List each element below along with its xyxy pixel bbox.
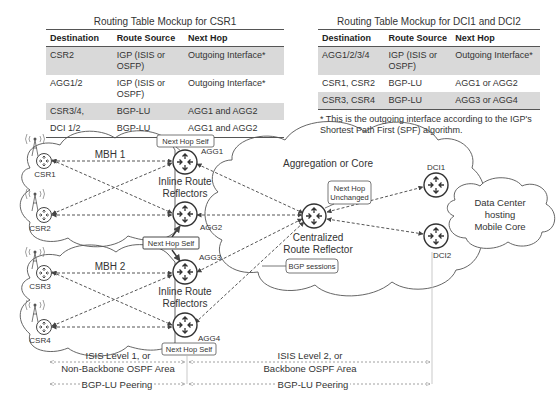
bgp-lu-peering-left-label: BGP-LU Peering — [82, 379, 153, 390]
callout-bgp-sessions: BGP sessions — [262, 259, 338, 273]
agg2-node[interactable]: AGG2 — [173, 202, 223, 232]
csr3-label: CSR3 — [29, 282, 51, 291]
network-diagram: MBH 1 MBH 2 Aggregation or Core Data Cen… — [0, 0, 560, 402]
svg-text:BGP sessions: BGP sessions — [289, 262, 336, 271]
agg4-node[interactable]: AGG4 — [173, 313, 221, 343]
core-cloud — [205, 122, 485, 296]
inline-rr-label: Reflectors — [162, 188, 207, 199]
csr1-label: CSR1 — [34, 170, 56, 179]
csr4-label: CSR4 — [29, 336, 51, 345]
agg1-label: AGG1 — [201, 147, 224, 156]
datacenter-label: Data Center — [474, 197, 525, 208]
agg3-node[interactable]: AGG3 — [173, 253, 222, 284]
svg-text:Next Hop Self: Next Hop Self — [148, 239, 195, 248]
mbh1-label: MBH 1 — [95, 149, 126, 160]
bgp-lu-peering-right-label: BGP-LU Peering — [278, 379, 349, 390]
csr2-label: CSR2 — [29, 224, 51, 233]
inline-rr-label: Inline Route — [158, 176, 212, 187]
svg-text:Next Hop Self: Next Hop Self — [166, 345, 213, 354]
callout-next-hop-unchanged: Next Hop Unchanged — [325, 181, 371, 208]
isis-level2-label: ISIS Level 2, or — [278, 350, 343, 361]
csr1-node[interactable]: CSR1 — [26, 134, 57, 179]
dci1-node[interactable]: DCI1 — [424, 163, 448, 197]
svg-text:Next Hop: Next Hop — [334, 184, 365, 193]
agg4-label: AGG4 — [198, 334, 221, 343]
svg-text:Unchanged: Unchanged — [330, 193, 368, 202]
csr2-node[interactable]: CSR2 — [26, 189, 52, 233]
agg3-label: AGG3 — [199, 253, 222, 262]
dci1-label: DCI1 — [427, 163, 446, 172]
isis-level1-label: ISIS Level 1, or — [86, 350, 151, 361]
core-label: Aggregation or Core — [283, 158, 373, 169]
svg-text:Next Hop Self: Next Hop Self — [162, 137, 209, 146]
central-rr-label: Centralized — [293, 232, 344, 243]
dci2-label: DCI2 — [433, 251, 452, 260]
central-rr-label: Route Reflector — [283, 244, 353, 255]
datacenter-label: Mobile Core — [474, 221, 525, 232]
mbh2-label: MBH 2 — [95, 261, 126, 272]
dci2-node[interactable]: DCI2 — [424, 224, 452, 260]
callout-next-hop-self-agg23: Next Hop Self — [143, 237, 199, 249]
central-route-reflector-node[interactable] — [302, 204, 326, 228]
isis-level1-label: Non-Backbone OSPF Area — [61, 363, 175, 374]
datacenter-label: hosting — [485, 209, 516, 220]
csr4-node[interactable]: CSR4 — [26, 300, 52, 345]
agg2-label: AGG2 — [200, 223, 223, 232]
isis-level2-label: Backbone OSPF Area — [264, 363, 358, 374]
csr3-node[interactable]: CSR3 — [26, 247, 52, 291]
inline-rr-label: Reflectors — [162, 298, 207, 309]
callout-next-hop-self-agg4: Next Hop Self — [162, 343, 216, 355]
inline-rr-label: Inline Route — [158, 286, 212, 297]
